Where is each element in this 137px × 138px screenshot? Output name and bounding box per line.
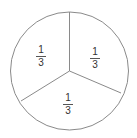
denominator: 3: [88, 60, 102, 70]
fraction-top-left: 1 3: [34, 45, 48, 68]
denominator: 3: [61, 106, 75, 116]
fraction-top-right: 1 3: [88, 47, 102, 70]
numerator: 1: [61, 93, 75, 103]
denominator: 3: [34, 58, 48, 68]
numerator: 1: [88, 47, 102, 57]
numerator: 1: [34, 45, 48, 55]
fraction-bottom: 1 3: [61, 93, 75, 116]
fraction-circle: [0, 0, 137, 138]
